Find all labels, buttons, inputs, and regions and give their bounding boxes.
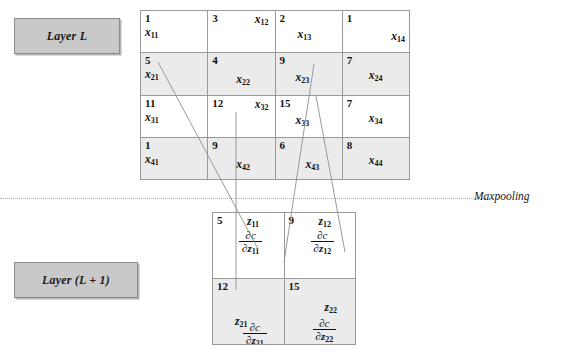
layer-l-cell-x41: 1x41 (141, 138, 208, 180)
cell-symbol-subscript: 33 (301, 119, 309, 128)
layer-l-plus-1-matrix: 5z11∂c∂z119z12∂c∂z1212z21∂c∂z2115z22∂c∂z… (212, 212, 356, 345)
gradient-fraction: ∂c∂z11 (239, 229, 262, 257)
cell-symbol: z12 (319, 215, 331, 229)
layer-l-cell-x13: 2x13 (276, 11, 343, 53)
cell-value: 9 (289, 214, 295, 226)
gradient-fraction: ∂c∂z22 (313, 317, 337, 345)
layer-l-plus-1-label-box: Layer (L + 1) (14, 262, 138, 298)
cell-symbol-subscript: 22 (242, 78, 250, 87)
gradient-denominator: ∂z12 (311, 241, 335, 257)
cell-symbol-subscript: 31 (151, 116, 159, 125)
cell-symbol: x44 (369, 154, 383, 168)
cell-symbol: x32 (255, 98, 269, 112)
layer-l-cell-x43: 6x43 (276, 138, 343, 180)
gradient-numerator: ∂c (313, 317, 337, 329)
cell-value: 1 (347, 12, 353, 24)
layer-divider-line (0, 198, 500, 199)
layer-l-label-text: Layer L (47, 29, 87, 44)
layer-l-cell-x22: 4x22 (208, 53, 275, 95)
layer-l-cell-x14: 1x14 (343, 11, 410, 53)
cell-symbol: x41 (145, 153, 159, 167)
gradient-numerator: ∂c (239, 229, 262, 241)
cell-symbol-subscript: 42 (242, 163, 250, 172)
cell-value: 12 (212, 97, 223, 109)
cell-value: 2 (280, 12, 286, 24)
gradient-denominator-subscript: 21 (256, 339, 264, 345)
cell-symbol-subscript: 43 (311, 163, 319, 172)
cell-symbol-subscript: 13 (303, 33, 311, 42)
cell-value: 6 (280, 139, 286, 151)
layer-l-cell-x42: 9x42 (208, 138, 275, 180)
cell-symbol: x42 (236, 158, 250, 172)
cell-symbol-subscript: 11 (251, 220, 259, 229)
layer-l-plus-1-cell-z22: 15z22∂c∂z22 (285, 279, 357, 345)
cell-symbol: z11 (247, 215, 259, 229)
diagram-canvas: Maxpooling Layer L Layer (L + 1) 1x113x1… (0, 0, 568, 355)
gradient-denominator-base: ∂z (314, 242, 324, 254)
maxpooling-label: Maxpooling (474, 190, 530, 202)
layer-l-cell-x31: 11x31 (141, 96, 208, 138)
layer-l-plus-1-cell-z21: 12z21∂c∂z21 (213, 279, 285, 345)
cell-symbol-subscript: 34 (375, 117, 383, 126)
layer-l-cell-x12: 3x12 (208, 11, 275, 53)
layer-l-cell-x23: 9x23 (276, 53, 343, 95)
layer-l-cell-x24: 7x24 (343, 53, 410, 95)
cell-symbol-subscript: 14 (397, 35, 405, 44)
cell-value: 4 (212, 54, 218, 66)
cell-symbol: x13 (298, 28, 312, 42)
cell-symbol-subscript: 12 (261, 18, 269, 27)
cell-value: 7 (347, 54, 353, 66)
cell-value: 9 (212, 139, 218, 151)
cell-symbol-subscript: 32 (261, 103, 269, 112)
layer-l-plus-1-cell-z11: 5z11∂c∂z11 (213, 213, 285, 279)
gradient-denominator-base: ∂z (242, 242, 252, 254)
layer-l-cell-x44: 8x44 (343, 138, 410, 180)
gradient-denominator-subscript: 11 (252, 247, 260, 256)
cell-value: 1 (145, 12, 151, 24)
cell-symbol-subscript: 44 (375, 159, 383, 168)
cell-value: 15 (280, 97, 291, 109)
cell-value: 1 (145, 139, 151, 151)
cell-symbol: x33 (296, 114, 310, 128)
cell-value: 15 (289, 280, 300, 292)
layer-l-plus-1-cell-z12: 9z12∂c∂z12 (285, 213, 357, 279)
gradient-denominator: ∂z22 (313, 329, 337, 345)
gradient-numerator: ∂c (311, 229, 335, 241)
cell-value: 5 (145, 54, 151, 66)
gradient-denominator: ∂z11 (239, 241, 262, 257)
gradient-denominator: ∂z21 (243, 333, 267, 345)
gradient-numerator: ∂c (243, 321, 267, 333)
cell-symbol-subscript: 22 (329, 306, 337, 315)
cell-value: 9 (280, 54, 286, 66)
cell-symbol: z22 (325, 301, 337, 315)
layer-l-cell-x21: 5x21 (141, 53, 208, 95)
layer-l-matrix: 1x113x122x131x145x214x229x237x2411x3112x… (140, 10, 410, 180)
layer-l-cell-x32: 12x32 (208, 96, 275, 138)
cell-symbol: x22 (236, 73, 250, 87)
cell-symbol: x43 (306, 158, 320, 172)
cell-symbol: x34 (369, 112, 383, 126)
layer-l-cell-x34: 7x34 (343, 96, 410, 138)
cell-symbol: x21 (145, 68, 159, 82)
gradient-denominator-base: ∂z (246, 334, 256, 345)
cell-symbol-subscript: 11 (151, 31, 159, 40)
cell-symbol: x23 (296, 71, 310, 85)
gradient-denominator-subscript: 12 (323, 247, 331, 256)
cell-symbol: x24 (369, 69, 383, 83)
gradient-denominator-subscript: 22 (325, 335, 333, 344)
cell-symbol: x31 (145, 111, 159, 125)
cell-symbol: x12 (255, 13, 269, 27)
cell-symbol-subscript: 21 (151, 73, 159, 82)
gradient-denominator-base: ∂z (316, 330, 326, 342)
cell-symbol-subscript: 12 (323, 220, 331, 229)
cell-value: 7 (347, 97, 353, 109)
cell-value: 11 (145, 97, 155, 109)
cell-symbol-subscript: 23 (301, 76, 309, 85)
layer-l-cell-x33: 15x33 (276, 96, 343, 138)
cell-symbol-subscript: 41 (151, 158, 159, 167)
gradient-fraction: ∂c∂z21 (243, 321, 267, 345)
layer-l-label-box: Layer L (14, 18, 120, 54)
cell-symbol-subscript: 24 (375, 74, 383, 83)
cell-value: 5 (217, 214, 223, 226)
layer-l-cell-x11: 1x11 (141, 11, 208, 53)
